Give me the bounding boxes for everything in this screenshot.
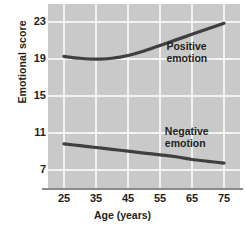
x-axis-title: Age (years) [0, 209, 245, 221]
x-tick-label-55: 55 [145, 192, 175, 204]
plot-area: Positive emotion Negative emotion [48, 4, 240, 188]
series-label-positive-emotion: Positive emotion [166, 40, 207, 64]
x-tick-label-75: 75 [209, 192, 239, 204]
x-tick-label-35: 35 [81, 192, 111, 204]
y-tick-label-23: 23 [24, 15, 46, 27]
y-axis-tick-labels: 711151923 [22, 0, 46, 189]
x-tick-label-45: 45 [113, 192, 143, 204]
x-tick-label-25: 25 [49, 192, 79, 204]
x-tick-label-65: 65 [177, 192, 207, 204]
emotional-score-line-chart: Emotional score 711151923 Positive emoti… [0, 0, 245, 227]
x-axis-tick-labels: 253545556575 [48, 192, 240, 206]
x-axis-line [42, 188, 243, 190]
y-tick-label-15: 15 [24, 89, 46, 101]
series-label-negative-emotion: Negative emotion [165, 125, 209, 149]
y-tick-label-11: 11 [24, 126, 46, 138]
y-tick-label-7: 7 [24, 163, 46, 175]
data-series-curves [48, 4, 240, 188]
y-tick-label-19: 19 [24, 52, 46, 64]
